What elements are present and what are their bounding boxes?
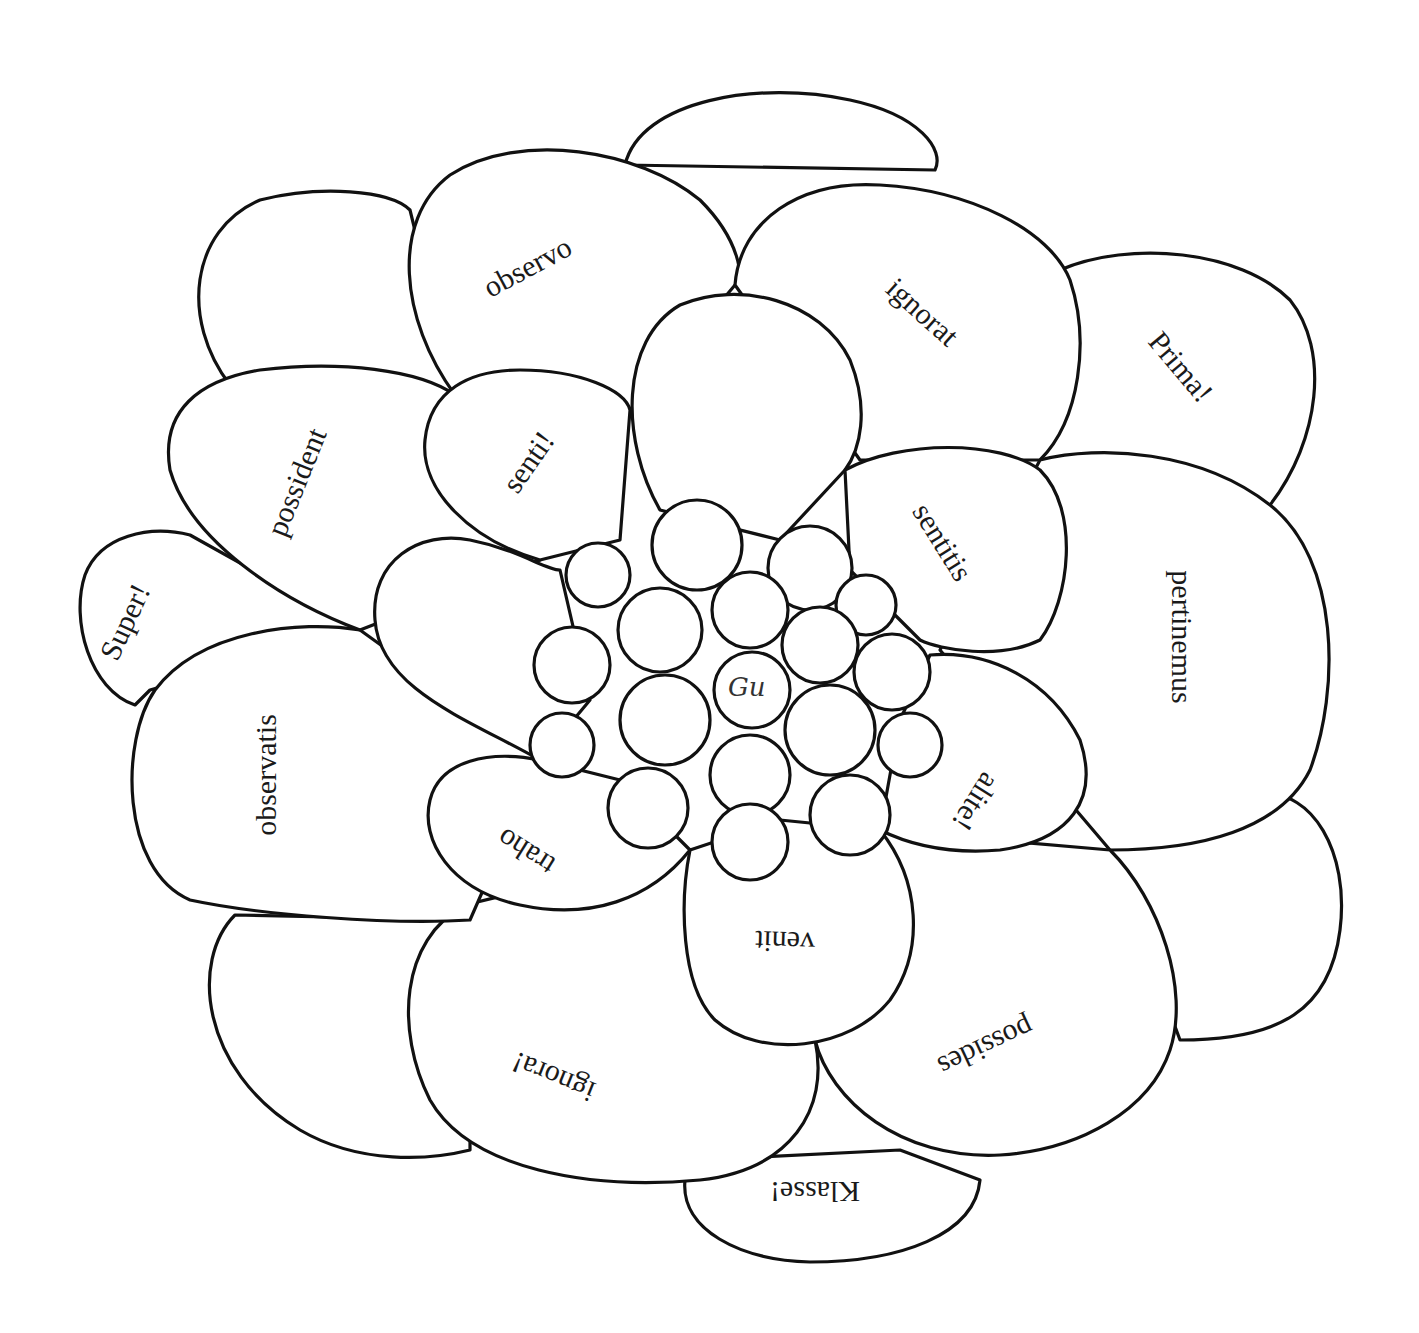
petal-word-observatis: observatis — [249, 714, 283, 836]
petal-word-pertinemus: pertinemus — [1165, 570, 1199, 703]
petal-top-back — [625, 93, 937, 170]
petal-top-inner — [632, 294, 861, 540]
center-signature: Gu — [728, 672, 766, 702]
flower-drawing — [0, 0, 1419, 1333]
petal-word-klasse: Klasse! — [770, 1175, 860, 1209]
petal-word-venit: venit — [754, 924, 815, 960]
